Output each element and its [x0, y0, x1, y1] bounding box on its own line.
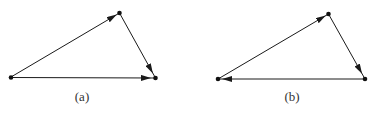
vector-triangles-diagram: (a) (b) — [0, 0, 373, 113]
point-dot — [9, 75, 14, 80]
vector-a-side2 — [120, 13, 156, 78]
figure-b: (b) — [216, 12, 368, 104]
point-dot — [153, 76, 158, 81]
figure-label-a: (a) — [75, 89, 89, 104]
point-dot — [326, 12, 331, 17]
vector-a-side1 — [11, 13, 120, 77]
point-dot — [117, 11, 122, 16]
figure-a: (a) — [9, 11, 158, 104]
point-dot — [363, 77, 368, 82]
figure-label-b: (b) — [284, 89, 299, 104]
vector-b-side1 — [218, 14, 329, 79]
vector-a-resultant — [11, 78, 156, 79]
point-dot — [216, 77, 221, 82]
vector-b-side2 — [329, 14, 366, 79]
